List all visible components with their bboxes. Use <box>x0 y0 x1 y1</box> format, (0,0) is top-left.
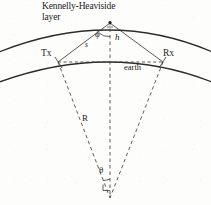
diagram-canvas <box>0 0 211 205</box>
kennelly-heaviside-layer-arc <box>0 30 211 54</box>
height-label-h: h <box>115 33 120 42</box>
slant-path-tx <box>58 23 110 62</box>
diagram-title-line1: Kennelly-Heaviside <box>42 2 115 12</box>
phi-angle-label: ϕ <box>95 30 100 39</box>
theta-angle-label: θ <box>99 166 103 175</box>
theta-angle-arc <box>103 179 110 181</box>
earth-label: earth <box>124 63 141 72</box>
phi-angle-arc <box>99 33 111 37</box>
reflection-point-marker <box>108 21 111 24</box>
tx-label: Tx <box>41 49 52 59</box>
slant-path-rx <box>110 23 163 62</box>
rx-label: Rx <box>163 49 174 59</box>
diagram-title-line2: layer <box>42 13 60 23</box>
radius-dashed-tx <box>58 62 110 198</box>
radius-label-R: R <box>82 114 88 123</box>
radius-dashed-rx <box>110 62 163 198</box>
slant-path-label-s: s <box>85 41 88 49</box>
kennelly-heaviside-diagram: Kennelly-Heaviside layer Tx Rx earth h s… <box>0 0 211 205</box>
earth-surface-arc <box>0 62 211 84</box>
